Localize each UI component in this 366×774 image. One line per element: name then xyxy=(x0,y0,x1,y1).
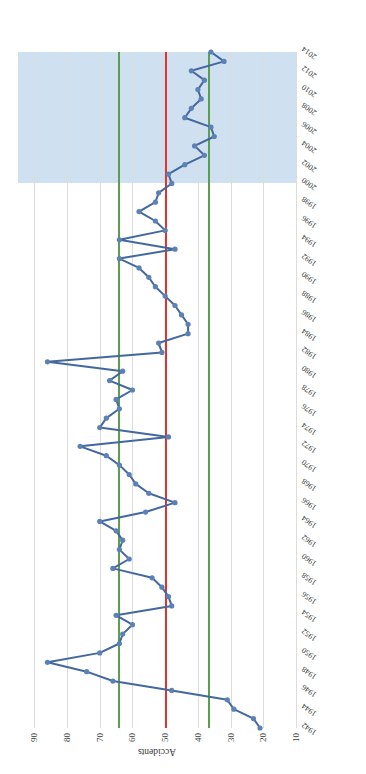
data-point-marker xyxy=(153,200,158,205)
data-point-marker xyxy=(45,359,50,364)
y-axis-tick-label: 40 xyxy=(193,733,203,742)
x-axis-tick-label: 1944 xyxy=(300,702,318,719)
data-point-marker xyxy=(114,528,119,533)
screenshot-canvas: Accidents 908070605040302010 19421944194… xyxy=(0,0,366,774)
data-point-marker xyxy=(78,444,83,449)
data-point-marker xyxy=(120,369,125,374)
x-axis-tick-label: 1966 xyxy=(300,495,318,512)
data-point-marker xyxy=(172,247,177,252)
data-point-marker xyxy=(166,594,171,599)
x-axis-tick-label: 1986 xyxy=(300,308,318,325)
data-point-marker xyxy=(169,181,174,186)
x-axis-tick-label: 1962 xyxy=(300,533,318,550)
x-axis-tick-label: 1976 xyxy=(300,401,318,418)
x-axis-tick-label: 2008 xyxy=(300,101,318,118)
y-axis-tick-label: 70 xyxy=(95,733,105,742)
x-axis-tick-label: 2014 xyxy=(300,45,318,62)
x-axis-tick-label: 1984 xyxy=(300,326,318,343)
data-point-marker xyxy=(189,68,194,73)
x-axis-tick-label: 1964 xyxy=(300,514,318,531)
x-axis-tick-label: 1946 xyxy=(300,683,318,700)
data-point-marker xyxy=(163,228,168,233)
data-point-marker xyxy=(208,125,213,130)
data-point-marker xyxy=(127,472,132,477)
data-point-marker xyxy=(159,350,164,355)
data-point-marker xyxy=(127,556,132,561)
data-point-marker xyxy=(166,171,171,176)
data-point-marker xyxy=(120,538,125,543)
data-point-marker xyxy=(107,378,112,383)
data-point-marker xyxy=(225,697,230,702)
data-point-marker xyxy=(130,387,135,392)
x-axis-tick-label: 1954 xyxy=(300,608,318,625)
data-point-marker xyxy=(172,500,177,505)
y-axis-tick-label: 50 xyxy=(160,733,170,742)
x-axis-tick-label: 1974 xyxy=(300,420,318,437)
data-point-marker xyxy=(169,688,174,693)
x-axis-tick-label: 2002 xyxy=(300,157,318,174)
data-point-marker xyxy=(110,566,115,571)
data-point-marker xyxy=(104,453,109,458)
x-axis-tick-label: 1982 xyxy=(300,345,318,362)
data-point-marker xyxy=(97,650,102,655)
x-axis-tick-label: 1994 xyxy=(300,232,318,249)
data-point-marker xyxy=(117,406,122,411)
data-point-marker xyxy=(185,331,190,336)
data-point-marker xyxy=(212,134,217,139)
x-axis-tick-label: 2004 xyxy=(300,139,318,156)
data-point-marker xyxy=(104,416,109,421)
x-axis-tick-label: 1990 xyxy=(300,270,318,287)
data-point-marker xyxy=(146,491,151,496)
data-point-marker xyxy=(202,78,207,83)
x-axis-tick-label: 1998 xyxy=(300,195,318,212)
x-axis-tick-label: 2012 xyxy=(300,63,318,80)
data-point-marker xyxy=(182,115,187,120)
x-axis-tick-label: 1952 xyxy=(300,627,318,644)
x-axis-tick-label: 1980 xyxy=(300,364,318,381)
data-point-marker xyxy=(114,397,119,402)
y-axis-tick-label: 30 xyxy=(226,733,236,742)
x-axis-tick-label: 1996 xyxy=(300,214,318,231)
data-point-marker xyxy=(189,106,194,111)
data-point-marker xyxy=(192,143,197,148)
data-point-marker xyxy=(153,284,158,289)
y-axis-tick-label: 10 xyxy=(291,733,301,742)
data-point-marker xyxy=(84,669,89,674)
data-point-marker xyxy=(136,265,141,270)
data-point-marker xyxy=(117,256,122,261)
x-axis-tick-label: 1956 xyxy=(300,589,318,606)
data-point-marker xyxy=(136,209,141,214)
y-axis-tick-label: 90 xyxy=(29,733,39,742)
x-axis-tick-label: 1950 xyxy=(300,646,318,663)
data-point-marker xyxy=(110,678,115,683)
y-axis-title-label: Accidents xyxy=(57,747,257,757)
data-point-marker xyxy=(117,547,122,552)
data-point-marker xyxy=(156,340,161,345)
x-axis-tick-label: 1948 xyxy=(300,664,318,681)
x-axis-tick-label: 1960 xyxy=(300,552,318,569)
x-axis-tick-label: 1992 xyxy=(300,251,318,268)
data-point-marker xyxy=(208,49,213,54)
y-axis-tick-label: 80 xyxy=(62,733,72,742)
data-point-marker xyxy=(185,322,190,327)
x-axis-tick-label: 1978 xyxy=(300,383,318,400)
data-point-marker xyxy=(251,716,256,721)
data-point-marker xyxy=(221,59,226,64)
data-point-marker xyxy=(97,425,102,430)
data-point-marker xyxy=(120,632,125,637)
data-point-marker xyxy=(117,463,122,468)
x-axis-tick-label: 1942 xyxy=(300,721,318,738)
x-axis-tick-label: 2010 xyxy=(300,82,318,99)
data-point-marker xyxy=(199,96,204,101)
x-axis-tick-label: 1972 xyxy=(300,439,318,456)
data-point-marker xyxy=(97,519,102,524)
gridline xyxy=(296,52,297,728)
y-axis-tick-label: 60 xyxy=(127,733,137,742)
data-point-marker xyxy=(156,190,161,195)
data-point-marker xyxy=(202,153,207,158)
data-point-marker xyxy=(117,641,122,646)
x-axis-tick-label: 2000 xyxy=(300,176,318,193)
y-axis-tick-label: 20 xyxy=(258,733,268,742)
data-point-marker xyxy=(114,613,119,618)
data-point-marker xyxy=(182,162,187,167)
